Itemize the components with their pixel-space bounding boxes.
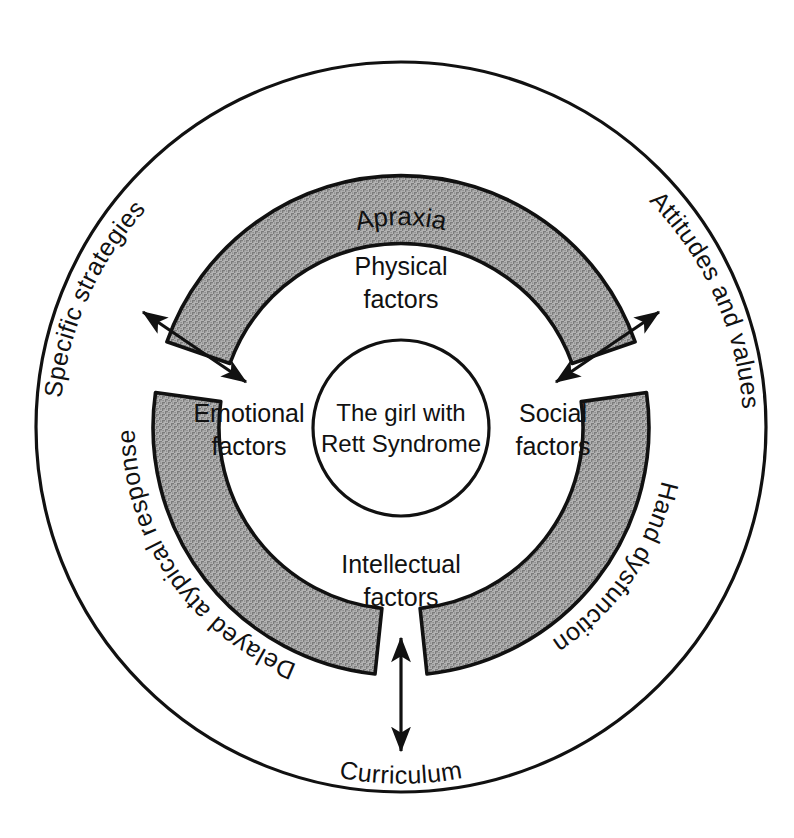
center-label-line1: The girl with xyxy=(336,399,465,426)
rett-syndrome-diagram: The girl with Rett Syndrome Physical fac… xyxy=(0,0,794,838)
inner-label-intellectual-line2: factors xyxy=(363,583,438,611)
inner-label-social-line2: factors xyxy=(515,432,590,460)
center-circle xyxy=(313,340,489,516)
diagram-root: The girl with Rett Syndrome Physical fac… xyxy=(0,0,794,838)
inner-label-social-line1: Social xyxy=(519,399,587,427)
inner-label-emotional-line1: Emotional xyxy=(193,399,304,427)
inner-label-physical-line1: Physical xyxy=(354,252,447,280)
arc-label-apraxia: Apraxia xyxy=(353,201,450,236)
inner-label-emotional-line2: factors xyxy=(211,432,286,460)
center-label-line2: Rett Syndrome xyxy=(321,430,481,457)
inner-label-physical-line2: factors xyxy=(363,285,438,313)
inner-label-intellectual-line1: Intellectual xyxy=(341,550,461,578)
arc-label-apraxia-text: Apraxia xyxy=(353,201,450,236)
